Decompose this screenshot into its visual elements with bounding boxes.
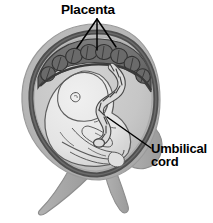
figure-container: Placenta Umbilical cord (0, 0, 213, 223)
label-umbilical-cord: Umbilical cord (151, 142, 207, 168)
label-umbilical-cord-line2: cord (151, 155, 207, 168)
anatomy-illustration (0, 0, 213, 223)
label-placenta: Placenta (61, 3, 115, 16)
